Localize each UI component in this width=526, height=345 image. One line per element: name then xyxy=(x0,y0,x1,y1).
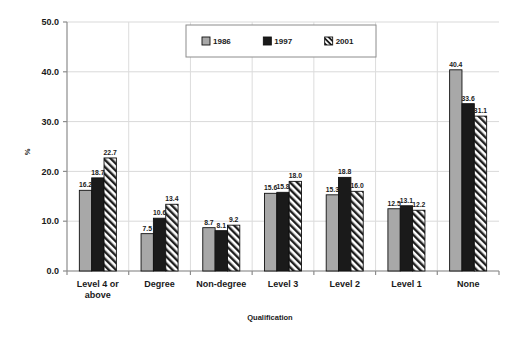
bar-1997-degree xyxy=(153,218,165,271)
y-axis-tick-label: 0.0 xyxy=(46,266,59,276)
bar-1986-level-4-or-above xyxy=(79,190,91,271)
bar-1997-non-degree xyxy=(215,231,227,271)
legend-swatch-2001 xyxy=(325,37,333,45)
bar-1986-none xyxy=(450,70,462,271)
bar-value-label: 13.4 xyxy=(165,195,178,202)
category-labels: Level 4 oraboveDegreeNon-degreeLevel 3Le… xyxy=(77,279,480,300)
bar-value-label: 16.0 xyxy=(350,182,363,189)
y-axis-tick-label: 40.0 xyxy=(41,67,59,77)
x-axis-category-label: Level 1 xyxy=(391,279,422,289)
category-label-line: above xyxy=(85,290,111,300)
bar-value-label: 31.1 xyxy=(474,107,487,114)
bar-1986-level-3 xyxy=(264,193,276,271)
legend-label-1997: 1997 xyxy=(274,37,292,46)
legend-swatch-1986 xyxy=(202,37,210,45)
x-axis-category-label: Level 3 xyxy=(268,279,299,289)
bar-value-label: 18.7 xyxy=(91,169,104,176)
bar-2001-level-2 xyxy=(351,191,363,271)
y-axis-tick-label: 20.0 xyxy=(41,167,59,177)
y-axis-title: % xyxy=(23,148,32,155)
category-label-line: Level 4 or xyxy=(77,279,120,289)
category-label-line: Level 2 xyxy=(329,279,360,289)
bar-value-label: 9.2 xyxy=(229,216,239,223)
bar-value-label: 18.0 xyxy=(289,172,302,179)
bar-chart: 0.010.020.030.040.050.0 16.218.722.77.51… xyxy=(0,0,526,345)
legend-label-2001: 2001 xyxy=(336,37,354,46)
bar-value-label: 12.2 xyxy=(412,201,425,208)
bar-1997-level-1 xyxy=(400,206,412,271)
bar-value-label: 8.1 xyxy=(217,222,227,229)
y-axis-tick-label: 10.0 xyxy=(41,216,59,226)
category-label-line: Level 3 xyxy=(268,279,299,289)
bar-1986-level-2 xyxy=(326,195,338,271)
bar-1986-degree xyxy=(141,234,153,271)
legend-swatch-1997 xyxy=(263,37,271,45)
legend-label-1986: 1986 xyxy=(213,37,231,46)
bar-2001-level-4-or-above xyxy=(104,158,116,271)
category-label-line: Level 1 xyxy=(391,279,422,289)
bar-value-label: 40.4 xyxy=(449,61,462,68)
bar-1997-level-3 xyxy=(277,192,289,271)
category-label-line: Non-degree xyxy=(196,279,246,289)
chart-canvas: 0.010.020.030.040.050.0 16.218.722.77.51… xyxy=(0,0,526,345)
bar-value-label: 22.7 xyxy=(104,149,117,156)
bar-value-label: 33.6 xyxy=(462,95,475,102)
y-axis: 0.010.020.030.040.050.0 xyxy=(41,17,67,276)
x-axis-category-label: Level 2 xyxy=(329,279,360,289)
y-axis-tick-label: 50.0 xyxy=(41,17,59,27)
legend: 198619972001 xyxy=(186,25,376,57)
bar-2001-none xyxy=(474,116,486,271)
x-axis-category-label: Level 4 orabove xyxy=(77,279,120,300)
bar-value-label: 8.7 xyxy=(204,219,214,226)
bar-value-label: 7.5 xyxy=(143,225,153,232)
bar-2001-degree xyxy=(166,204,178,271)
x-axis-category-label: Degree xyxy=(144,279,175,289)
category-label-line: None xyxy=(457,279,480,289)
x-axis-category-label: None xyxy=(457,279,480,289)
category-label-line: Degree xyxy=(144,279,175,289)
bar-value-label: 18.8 xyxy=(338,168,351,175)
y-axis-tick-label: 30.0 xyxy=(41,117,59,127)
bar-1997-level-4-or-above xyxy=(92,178,104,271)
bar-1997-none xyxy=(462,104,474,271)
bar-value-label: 10.6 xyxy=(153,209,166,216)
bar-value-label: 16.2 xyxy=(79,181,92,188)
bar-1986-level-1 xyxy=(388,209,400,271)
bar-1997-level-2 xyxy=(339,177,351,271)
bar-value-label: 15.8 xyxy=(276,183,289,190)
bar-2001-level-3 xyxy=(289,181,301,271)
x-axis-category-label: Non-degree xyxy=(196,279,246,289)
bar-2001-non-degree xyxy=(227,225,239,271)
bar-value-label: 15.3 xyxy=(326,186,339,193)
bar-1986-non-degree xyxy=(203,228,215,271)
x-axis xyxy=(67,271,499,275)
bars-layer xyxy=(79,70,486,271)
x-axis-title: Qualification xyxy=(247,313,293,322)
bar-2001-level-1 xyxy=(413,210,425,271)
